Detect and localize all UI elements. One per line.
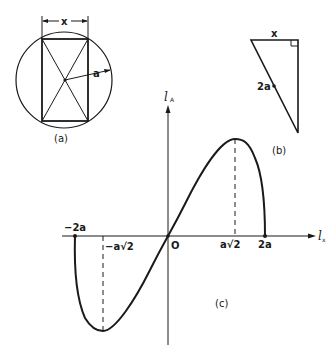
hypotenuse-label-2a: 2a [257,81,271,92]
caption-a: (a) [54,133,68,144]
point-neg-2a [73,234,77,238]
point-pos-2a [263,234,267,238]
radius-label-a: a [93,68,100,79]
caption-c: (c) [215,298,228,309]
tick-neg-a-root2: −a√2 [105,241,134,252]
figure-a: x a (a) [16,16,112,144]
point-origin [166,234,170,238]
tick-neg-2a: −2a [64,222,86,233]
hypotenuse-dot [272,84,276,88]
tick-a-root2: a√2 [220,239,240,250]
right-angle-marker [291,40,298,46]
origin-label: O [171,240,180,251]
caption-b: (b) [272,145,286,156]
dimension-label-x: x [61,16,68,27]
radius-arrowhead [104,69,111,73]
tick-pos-2a: 2a [258,239,272,250]
y-axis-label: l [164,90,168,104]
figure-c: l A l x −2a −a√2 O a√2 2a (c) [62,90,326,345]
dim-arrow-right-icon [82,19,88,23]
side-label-x: x [271,28,278,39]
y-axis-subscript: A [170,96,175,103]
y-axis-arrow-icon [166,105,171,113]
x-axis-subscript: x [322,236,326,243]
figure-b: x 2a (b) [251,28,298,156]
dim-arrow-left-icon [42,19,48,23]
diagram-canvas: x a (a) x 2a (b) l A l x −2a −a√2 O [0,0,332,356]
x-axis-arrow-icon [308,234,316,239]
